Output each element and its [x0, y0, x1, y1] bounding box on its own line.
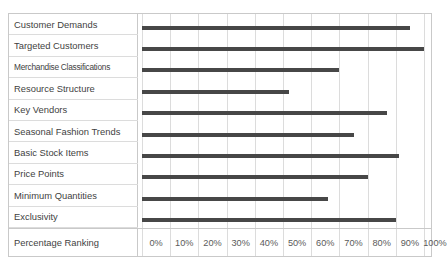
bar-row: [138, 78, 431, 99]
axis-tick-label: 10%: [175, 238, 193, 248]
plot-area: [138, 14, 431, 256]
axis-tick-line: [311, 229, 312, 256]
x-axis-title: Percentage Ranking: [9, 228, 138, 256]
category-label: Targeted Customers: [9, 35, 138, 56]
bars-region: [138, 14, 431, 228]
axis-tick-line: [255, 229, 256, 256]
axis-tick-line: [368, 229, 369, 256]
bar-row: [138, 57, 431, 78]
axis-tick-label: 30%: [231, 238, 249, 248]
category-label: Basic Stock Items: [9, 142, 138, 163]
bar-row: [138, 185, 431, 206]
bar: [142, 47, 424, 51]
bar: [142, 26, 410, 30]
axis-tick-line: [339, 229, 340, 256]
axis-tick-label: 80%: [372, 238, 390, 248]
bar-row: [138, 207, 431, 228]
axis-tick-label: 40%: [260, 238, 278, 248]
category-label: Exclusivity: [9, 207, 138, 228]
bar: [142, 175, 368, 179]
category-label: Key Vendors: [9, 100, 138, 121]
bar-row: [138, 14, 431, 35]
category-label: Seasonal Fashion Trends: [9, 121, 138, 142]
category-label: Customer Demands: [9, 14, 138, 35]
bar: [142, 218, 396, 222]
bar-row: [138, 142, 431, 163]
bar-row: [138, 35, 431, 56]
bar: [142, 154, 399, 158]
axis-tick-label: 90%: [401, 238, 419, 248]
axis-tick-label: 60%: [316, 238, 334, 248]
axis-tick-line: [396, 229, 397, 256]
bar: [142, 111, 387, 115]
bar-row: [138, 164, 431, 185]
bar-row: [138, 100, 431, 121]
axis-tick-label: 70%: [344, 238, 362, 248]
bar: [142, 90, 289, 94]
axis-tick-line: [283, 229, 284, 256]
axis-tick-line: [142, 229, 143, 256]
bar: [142, 197, 328, 201]
axis-tick-line: [170, 229, 171, 256]
category-label: Merchandise Classifications: [9, 57, 138, 78]
bar-row: [138, 121, 431, 142]
category-label: Minimum Quantities: [9, 185, 138, 206]
category-label: Price Points: [9, 164, 138, 185]
axis-tick-label: 100%: [423, 238, 447, 248]
x-axis-row: 0%10%20%30%40%50%60%70%80%90%100%: [138, 228, 431, 256]
chart-grid-body: Customer DemandsTargeted CustomersMercha…: [9, 14, 431, 256]
axis-tick-label: 20%: [203, 238, 221, 248]
axis-tick-line: [227, 229, 228, 256]
axis-tick-line: [198, 229, 199, 256]
axis-tick-label: 0%: [149, 238, 162, 248]
category-label-column: Customer DemandsTargeted CustomersMercha…: [9, 14, 138, 256]
axis-tick-label: 50%: [288, 238, 306, 248]
chart-frame: Customer DemandsTargeted CustomersMercha…: [8, 13, 432, 257]
category-label: Resource Structure: [9, 78, 138, 99]
bar: [142, 133, 354, 137]
bar: [142, 68, 339, 72]
